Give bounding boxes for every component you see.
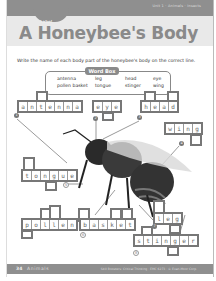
- label-number-1: 1: [14, 113, 19, 118]
- label-number-6: 6: [80, 232, 86, 238]
- stem: [102, 112, 114, 121]
- label-number-2: 2: [93, 116, 98, 121]
- letter-boxes-pollen-basket-2[interactable]: basket: [79, 218, 136, 231]
- page-number: 34: [16, 266, 22, 271]
- stem: [190, 134, 202, 146]
- honeybee-illustration: [63, 130, 192, 217]
- letter-boxes-antenna[interactable]: antenna: [17, 100, 83, 113]
- stem: [167, 246, 179, 256]
- stem: [169, 224, 181, 234]
- label-number-4: 4: [179, 141, 184, 146]
- label-number-3: 3: [137, 115, 142, 120]
- worksheet-page: Unit 1 · Animals · Insects Label A Honey…: [6, 0, 214, 277]
- stem: [45, 181, 57, 191]
- label-number-8: 8: [133, 250, 139, 256]
- label-number-5: 5: [63, 182, 69, 188]
- stem: [21, 230, 33, 239]
- section-name: Animals: [27, 266, 49, 271]
- letter-boxes-head[interactable]: head: [140, 100, 179, 113]
- footer-credit: Skill Boosters: Critical Thinking · EMC …: [101, 267, 197, 271]
- letter-boxes-stinger[interactable]: stinger: [133, 234, 199, 247]
